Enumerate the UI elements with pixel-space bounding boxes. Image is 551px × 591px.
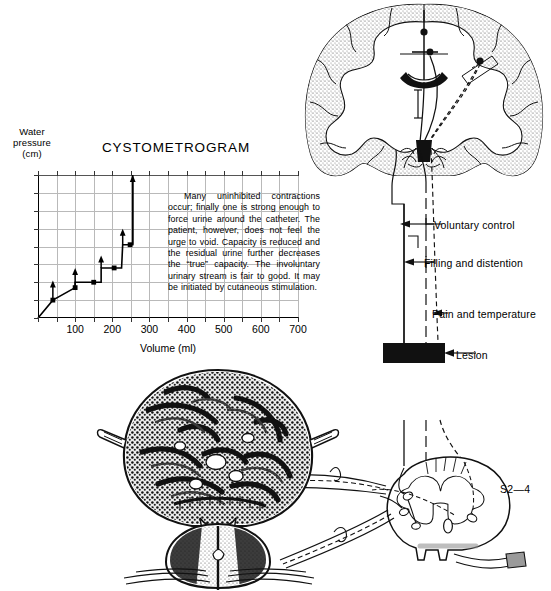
x-tick-mark	[75, 317, 76, 322]
label-lesion: Lesion	[456, 349, 488, 361]
x-tick-mark	[205, 317, 206, 322]
x-tick-label: 300	[132, 323, 166, 335]
chart-x-axis-title: Volume (ml)	[38, 342, 298, 354]
x-tick-label: 200	[95, 323, 129, 335]
y-tick-mark	[34, 264, 39, 265]
x-tick-label: 600	[244, 323, 278, 335]
caption-paragraph: Many uninhibited contractions occur; fin…	[168, 191, 320, 294]
y-tick-mark	[34, 229, 39, 230]
x-tick-mark	[57, 317, 58, 322]
label-sacral-segment: S2—4	[500, 483, 530, 495]
x-tick-mark	[224, 171, 225, 176]
contraction-arrow-head	[120, 229, 126, 236]
label-pain-and-temperature: Pain and temperature	[432, 308, 536, 320]
y-tick-mark	[34, 211, 39, 212]
x-tick-mark	[94, 171, 95, 176]
x-tick-mark	[261, 171, 262, 176]
x-tick-mark	[298, 171, 299, 176]
x-tick-label: 400	[170, 323, 204, 335]
x-tick-mark	[261, 317, 262, 322]
contraction-arrow-head	[98, 255, 104, 262]
contraction-arrow-head	[50, 280, 56, 287]
x-tick-mark	[205, 171, 206, 176]
y-axis-title-line2: pressure	[13, 137, 51, 148]
x-tick-mark	[168, 171, 169, 176]
x-tick-mark	[131, 317, 132, 322]
x-tick-label: 100	[58, 323, 92, 335]
lesion-marker	[383, 343, 445, 363]
data-point-marker	[91, 280, 96, 285]
x-tick-mark	[187, 171, 188, 176]
contraction-arrow-head	[130, 175, 136, 182]
y-tick-mark	[34, 300, 39, 301]
x-tick-mark	[112, 317, 113, 322]
contraction-arrow-head	[72, 268, 78, 275]
x-tick-mark	[94, 317, 95, 322]
x-tick-mark	[279, 317, 280, 322]
y-tick-mark	[34, 247, 39, 248]
x-tick-mark	[38, 317, 39, 322]
label-voluntary-control: Voluntary control	[434, 219, 515, 231]
x-tick-mark	[242, 317, 243, 322]
x-tick-label: 700	[281, 323, 315, 335]
x-tick-label: 500	[207, 323, 241, 335]
y-axis-title-line3: (cm)	[22, 148, 41, 159]
x-tick-mark	[149, 317, 150, 322]
x-tick-mark	[38, 171, 39, 176]
x-tick-mark	[187, 317, 188, 322]
y-axis-title-line1: Water	[19, 126, 44, 137]
chart-title: CYSTOMETROGRAM	[86, 140, 266, 155]
x-tick-mark	[168, 317, 169, 322]
chart-y-axis-title: Water pressure (cm)	[4, 126, 60, 159]
figure-root: Water pressure (cm) CYSTOMETROGRAM 01020…	[0, 0, 551, 591]
x-tick-mark	[149, 171, 150, 176]
x-tick-mark	[298, 317, 299, 322]
label-filling-and-distention: Filling and distention	[424, 257, 523, 269]
y-tick-mark	[34, 193, 39, 194]
x-tick-mark	[57, 171, 58, 176]
x-tick-mark	[279, 171, 280, 176]
x-tick-mark	[242, 171, 243, 176]
x-tick-mark	[112, 171, 113, 176]
data-point-marker	[112, 266, 117, 271]
x-tick-mark	[75, 171, 76, 176]
x-tick-mark	[131, 171, 132, 176]
y-tick-mark	[34, 282, 39, 283]
data-point-marker	[128, 242, 133, 247]
trabeculated-bladder-illustration	[96, 366, 341, 591]
x-tick-mark	[224, 317, 225, 322]
